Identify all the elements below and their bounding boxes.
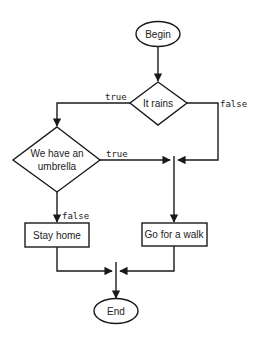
- node-stay-home: Stay home: [25, 223, 89, 247]
- umbrella-label-line2: umbrella: [38, 161, 77, 172]
- flowchart: Begin It rains We have an umbrella Stay …: [0, 0, 257, 343]
- umbrella-label-line1: We have an: [30, 148, 83, 159]
- edge-rains-false: [178, 103, 218, 160]
- walk-label: Go for a walk: [145, 229, 205, 240]
- umbrella-true-label: true: [106, 149, 128, 159]
- edge-rains-true: [57, 103, 130, 126]
- umbrella-false-label: false: [62, 211, 89, 221]
- node-end: End: [94, 299, 138, 324]
- edge-stay-home-to-junction: [57, 247, 112, 271]
- begin-label: Begin: [145, 29, 171, 40]
- edge-walk-to-junction: [120, 246, 174, 271]
- rains-false-label: false: [220, 99, 247, 109]
- node-begin: Begin: [136, 22, 180, 47]
- node-umbrella: We have an umbrella: [13, 127, 100, 192]
- node-go-for-walk: Go for a walk: [142, 223, 207, 246]
- it-rains-label: It rains: [143, 98, 173, 109]
- rains-true-label: true: [105, 92, 127, 102]
- end-label: End: [107, 306, 125, 317]
- stay-home-label: Stay home: [33, 230, 81, 241]
- node-it-rains: It rains: [130, 82, 187, 125]
